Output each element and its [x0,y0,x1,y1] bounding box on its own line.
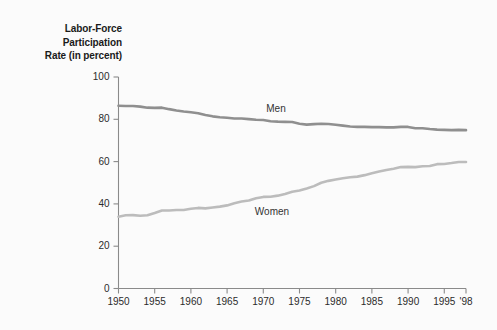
x-tick-label: 1960 [180,296,203,307]
x-tick-label: 1970 [252,296,275,307]
x-tick-label: 1965 [216,296,239,307]
series-line-women [119,162,467,217]
series-label-men: Men [266,103,285,114]
y-tick-label: 60 [98,156,110,167]
x-tick-label: '98 [459,296,472,307]
x-tick-label: 1985 [361,296,384,307]
series-label-women: Women [255,206,289,217]
y-axis-ticks: 020406080100 [93,71,119,294]
y-tick-label: 0 [104,283,110,294]
x-tick-label: 1990 [397,296,420,307]
y-tick-label: 40 [98,198,110,209]
x-tick-label: 1975 [288,296,311,307]
line-chart-plot: 020406080100 195019551960196519701975198… [0,0,497,330]
x-axis-ticks: 1950195519601965197019751980198519901995… [107,289,473,307]
y-tick-label: 80 [98,113,110,124]
chart-screenshot: Labor-Force Participation Rate (in perce… [0,0,497,330]
y-tick-label: 20 [98,240,110,251]
x-tick-label: 1980 [325,296,348,307]
y-tick-label: 100 [93,71,110,82]
series-line-men [119,106,467,130]
x-tick-label: 1950 [107,296,130,307]
x-tick-label: 1995 [433,296,456,307]
x-tick-label: 1955 [144,296,167,307]
